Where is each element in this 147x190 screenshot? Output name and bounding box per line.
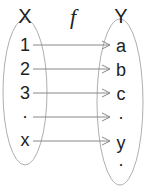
codomain-label: Y: [114, 6, 127, 26]
codomain-element-y: y: [117, 134, 126, 152]
domain-element-ellipsis: ·: [22, 107, 28, 125]
codomain-element-a: a: [116, 37, 126, 55]
codomain-element-trailing-ellipsis: ·: [118, 155, 124, 173]
codomain-element-ellipsis: ·: [118, 108, 124, 126]
domain-element-1: 1: [20, 36, 30, 54]
codomain-element-c: c: [117, 85, 126, 103]
domain-element-x: x: [21, 131, 30, 149]
domain-element-2: 2: [20, 60, 30, 78]
domain-label: X: [18, 6, 31, 26]
domain-element-3: 3: [20, 84, 30, 102]
function-label: f: [70, 6, 76, 28]
codomain-element-b: b: [116, 61, 126, 79]
